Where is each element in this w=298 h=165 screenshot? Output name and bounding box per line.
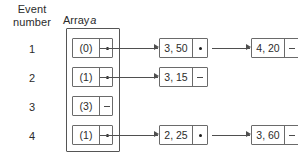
node-4-20-value: 4, 20 <box>252 39 284 57</box>
node-3-50: 3, 50 <box>159 38 208 58</box>
array-header-variable: a <box>89 14 96 26</box>
array-slot-3-row3: (3) <box>72 96 113 116</box>
null-pointer-icon <box>289 135 295 136</box>
node-3-15: 3, 15 <box>159 67 208 87</box>
event-number-header: Event number <box>2 3 62 28</box>
array-slot-1-row4-index: (1) <box>73 126 99 144</box>
node-3-60-value: 3, 60 <box>252 126 284 144</box>
array-header-word: Array <box>63 14 89 26</box>
array-header: Arraya <box>63 14 96 27</box>
array-slot-3-row3-index: (3) <box>73 97 99 115</box>
node-3-50-value: 3, 50 <box>160 39 192 57</box>
array-slot-1-row2-index: (1) <box>73 68 99 86</box>
event-number-2: 2 <box>2 72 62 84</box>
connector-node0-to-node1-row1 <box>212 48 250 49</box>
pointer-dot-icon <box>199 47 202 50</box>
event-number-4: 4 <box>2 130 62 142</box>
node-3-50-pointer <box>192 39 207 57</box>
array-slot-3-row3-pointer <box>99 97 114 115</box>
connector-slot0-to-node0 <box>100 48 158 49</box>
node-2-25: 2, 25 <box>159 125 208 145</box>
node-3-15-pointer <box>192 68 207 86</box>
node-4-20: 4, 20 <box>251 38 298 58</box>
node-2-25-value: 2, 25 <box>160 126 192 144</box>
node-2-25-pointer <box>192 126 207 144</box>
node-3-60-pointer <box>284 126 298 144</box>
pointer-dot-icon <box>199 134 202 137</box>
array-of-lists-diagram: Event number Arraya 1 2 3 4 (0) 3, 50 4,… <box>0 0 298 165</box>
connector-node0-to-node1-row4 <box>212 135 250 136</box>
connector-slot1-to-node-row2 <box>100 77 158 78</box>
event-number-1: 1 <box>2 43 62 55</box>
null-pointer-icon <box>197 77 203 78</box>
event-number-header-line1: Event <box>2 3 62 16</box>
event-number-3: 3 <box>2 101 62 113</box>
connector-slot1-to-node0-row4 <box>100 135 158 136</box>
node-4-20-pointer <box>284 39 298 57</box>
event-number-header-line2: number <box>2 16 62 29</box>
node-3-60: 3, 60 <box>251 125 298 145</box>
node-3-15-value: 3, 15 <box>160 68 192 86</box>
null-pointer-icon <box>289 48 295 49</box>
array-slot-0-index: (0) <box>73 39 99 57</box>
null-pointer-icon <box>104 106 110 107</box>
